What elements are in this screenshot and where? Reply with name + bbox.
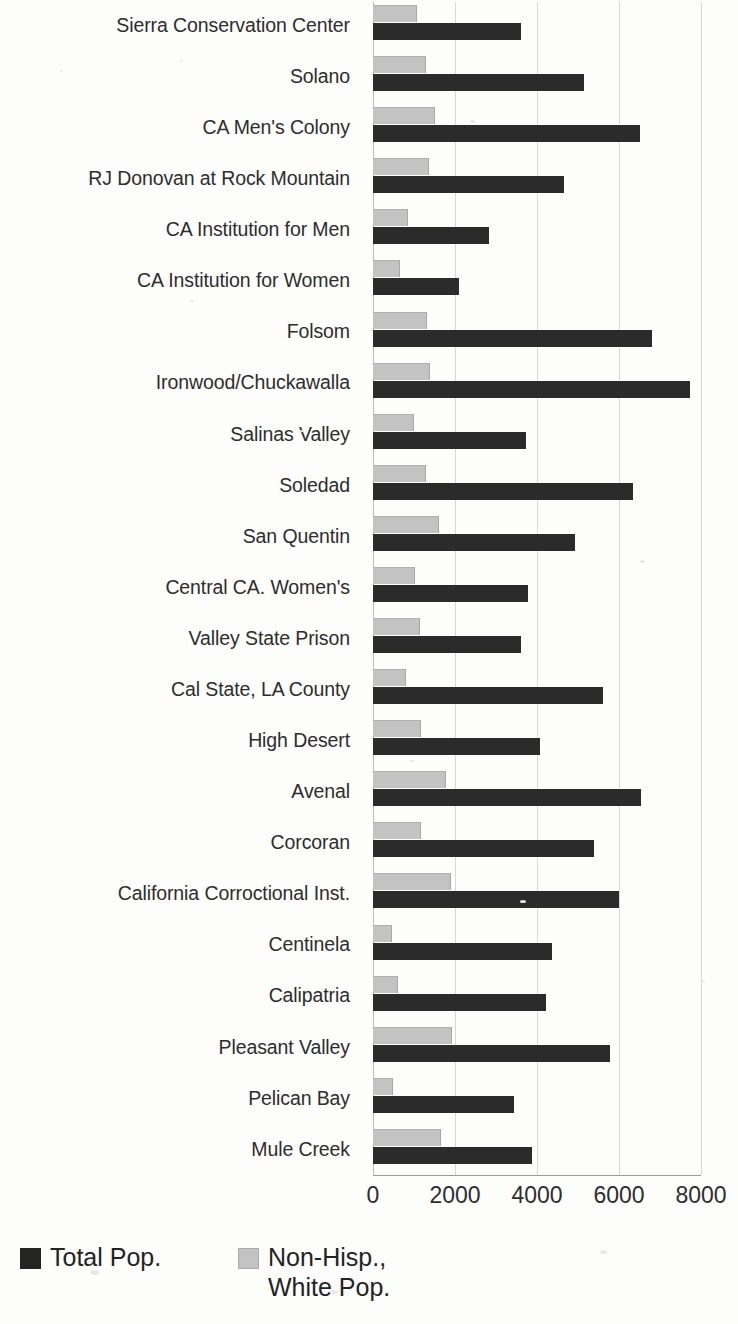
bar-non-hisp-white-pop — [373, 465, 426, 482]
category-label: Cal State, LA County — [171, 677, 350, 700]
bar-row: Avenal — [0, 766, 738, 816]
bar-total-pop — [373, 483, 633, 500]
category-label: Corcoran — [271, 831, 350, 854]
category-label: Avenal — [291, 780, 350, 803]
bar-total-pop — [373, 381, 690, 398]
category-label: Ironwood/Chuckawalla — [156, 371, 350, 394]
bar-total-pop — [373, 74, 584, 91]
bar-row: CA Institution for Men — [0, 204, 738, 254]
bar-row: Salinas Valley — [0, 409, 738, 459]
bar-row: Mule Creek — [0, 1124, 738, 1174]
x-axis-tick-labels: 02000400060008000 — [0, 1182, 738, 1216]
bar-total-pop — [373, 994, 546, 1011]
bar-total-pop — [373, 227, 489, 244]
bar-row: Soledad — [0, 460, 738, 510]
legend-swatch-dark-icon — [20, 1248, 41, 1269]
bar-total-pop — [373, 125, 640, 142]
bar-row: CA Institution for Women — [0, 255, 738, 305]
bar-total-pop — [373, 1045, 610, 1062]
category-label: Sierra Conservation Center — [116, 13, 350, 36]
bar-row: Pleasant Valley — [0, 1022, 738, 1072]
bar-non-hisp-white-pop — [373, 618, 420, 635]
bar-non-hisp-white-pop — [373, 669, 406, 686]
category-label: Mule Creek — [251, 1137, 350, 1160]
bar-non-hisp-white-pop — [373, 567, 415, 584]
legend-label-total-pop: Total Pop. — [50, 1243, 161, 1273]
bar-row: California Corroctional Inst. — [0, 868, 738, 918]
bar-total-pop — [373, 278, 459, 295]
bar-total-pop — [373, 636, 521, 653]
bar-non-hisp-white-pop — [373, 414, 414, 431]
category-label: Calipatria — [269, 984, 350, 1007]
plot-area: Sierra Conservation CenterSolanoCA Men's… — [0, 0, 738, 1180]
bar-total-pop — [373, 687, 603, 704]
bar-non-hisp-white-pop — [373, 260, 400, 277]
bar-total-pop — [373, 738, 540, 755]
category-label: Folsom — [287, 320, 350, 343]
bar-row: Cal State, LA County — [0, 664, 738, 714]
category-label: Solano — [290, 64, 350, 87]
bar-non-hisp-white-pop — [373, 873, 451, 890]
category-label: Valley State Prison — [189, 626, 350, 649]
bar-total-pop — [373, 330, 652, 347]
bar-total-pop — [373, 534, 575, 551]
bar-total-pop — [373, 789, 641, 806]
category-label: CA Institution for Men — [166, 218, 350, 241]
bar-non-hisp-white-pop — [373, 516, 439, 533]
chart-page: Sierra Conservation CenterSolanoCA Men's… — [0, 0, 738, 1324]
bar-total-pop — [373, 891, 619, 908]
category-label: Pleasant Valley — [219, 1035, 350, 1058]
legend-swatch-gray-icon — [238, 1248, 259, 1269]
category-label: California Corroctional Inst. — [118, 882, 350, 905]
bar-non-hisp-white-pop — [373, 925, 392, 942]
bar-non-hisp-white-pop — [373, 1027, 452, 1044]
bar-row: Folsom — [0, 307, 738, 357]
bar-non-hisp-white-pop — [373, 976, 398, 993]
x-tick-label: 8000 — [675, 1182, 726, 1209]
x-tick-label: 2000 — [429, 1182, 480, 1209]
bar-row: Pelican Bay — [0, 1073, 738, 1123]
bar-total-pop — [373, 176, 564, 193]
bar-row: RJ Donovan at Rock Mountain — [0, 153, 738, 203]
bar-non-hisp-white-pop — [373, 720, 421, 737]
bar-row: Calipatria — [0, 971, 738, 1021]
bar-non-hisp-white-pop — [373, 209, 408, 226]
x-tick-label: 6000 — [593, 1182, 644, 1209]
bar-non-hisp-white-pop — [373, 158, 429, 175]
category-label: Salinas Valley — [230, 422, 350, 445]
bar-row: Sierra Conservation Center — [0, 0, 738, 50]
category-label: Pelican Bay — [248, 1086, 350, 1109]
category-label: San Quentin — [243, 524, 350, 547]
legend-entry-non-hisp-white-pop: Non-Hisp., White Pop. — [238, 1243, 390, 1302]
bar-row: Corcoran — [0, 817, 738, 867]
legend-label-non-hisp-white-pop: Non-Hisp., White Pop. — [268, 1243, 390, 1302]
category-label: Central CA. Women's — [165, 575, 350, 598]
category-label: Centinela — [269, 933, 351, 956]
category-label: CA Institution for Women — [137, 269, 350, 292]
bar-row: San Quentin — [0, 511, 738, 561]
category-label: CA Men's Colony — [203, 116, 350, 139]
bar-non-hisp-white-pop — [373, 363, 430, 380]
category-label: RJ Donovan at Rock Mountain — [88, 167, 350, 190]
bar-row: CA Men's Colony — [0, 102, 738, 152]
bar-total-pop — [373, 432, 526, 449]
bar-non-hisp-white-pop — [373, 312, 427, 329]
x-tick-label: 0 — [367, 1182, 380, 1209]
bar-non-hisp-white-pop — [373, 107, 435, 124]
bar-non-hisp-white-pop — [373, 1078, 393, 1095]
bar-row: Central CA. Women's — [0, 562, 738, 612]
bar-total-pop — [373, 1147, 532, 1164]
bar-non-hisp-white-pop — [373, 822, 421, 839]
x-tick-label: 4000 — [511, 1182, 562, 1209]
bar-total-pop — [373, 585, 528, 602]
x-axis-baseline — [373, 1175, 701, 1176]
bar-total-pop — [373, 943, 552, 960]
category-label: High Desert — [248, 729, 350, 752]
bar-row: Ironwood/Chuckawalla — [0, 358, 738, 408]
bar-total-pop — [373, 1096, 514, 1113]
bar-total-pop — [373, 840, 594, 857]
bar-row: Solano — [0, 51, 738, 101]
category-label: Soledad — [279, 473, 350, 496]
bar-total-pop — [373, 23, 521, 40]
bar-non-hisp-white-pop — [373, 771, 446, 788]
